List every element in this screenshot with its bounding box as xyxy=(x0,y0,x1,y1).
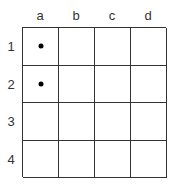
row-label-4: 4 xyxy=(5,152,17,167)
cell-b3 xyxy=(59,103,95,141)
cell-d3 xyxy=(131,103,167,141)
dot-marker xyxy=(38,81,43,86)
cell-a1 xyxy=(23,28,59,66)
column-label-c: c xyxy=(94,8,130,23)
cell-b2 xyxy=(59,66,95,104)
cell-b1 xyxy=(59,28,95,66)
column-label-a: a xyxy=(22,8,58,23)
cell-c2 xyxy=(95,66,131,104)
cell-c1 xyxy=(95,28,131,66)
cell-b4 xyxy=(59,141,95,179)
cell-d4 xyxy=(131,141,167,179)
cell-c3 xyxy=(95,103,131,141)
cell-d1 xyxy=(131,28,167,66)
row-label-2: 2 xyxy=(5,77,17,92)
column-label-b: b xyxy=(58,8,94,23)
column-label-d: d xyxy=(130,8,166,23)
row-label-3: 3 xyxy=(5,114,17,129)
cell-a2 xyxy=(23,66,59,104)
cell-a3 xyxy=(23,103,59,141)
row-label-1: 1 xyxy=(5,39,17,54)
cell-a4 xyxy=(23,141,59,179)
cell-c4 xyxy=(95,141,131,179)
grid xyxy=(22,27,166,177)
dot-marker xyxy=(38,44,43,49)
cell-d2 xyxy=(131,66,167,104)
